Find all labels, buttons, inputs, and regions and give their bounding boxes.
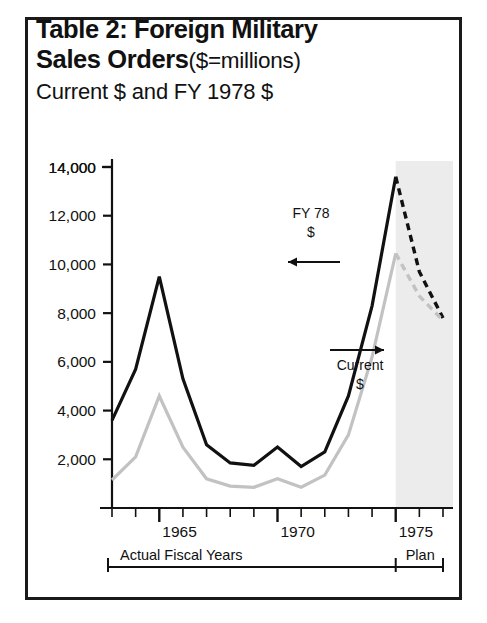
period-brackets: Actual Fiscal YearsPlan: [108, 547, 443, 572]
annotation-fy78-line1: FY 78: [292, 205, 329, 221]
x-tick-label: 1975: [399, 523, 433, 540]
y-axis-tick-labels: 2,0004,0006,0008,00010,00012,00014,00014…: [49, 159, 97, 468]
bracket-label-plan: Plan: [406, 547, 435, 563]
y-tick-label: 6,000: [57, 353, 96, 370]
x-axis-ticks: [112, 508, 443, 522]
y-axis-ticks: [103, 167, 112, 459]
annotation-fy78-line2: $: [307, 224, 315, 240]
x-tick-label: 1965: [162, 523, 196, 540]
y-tick-label: 8,000: [57, 305, 96, 322]
bracket-label-actual: Actual Fiscal Years: [120, 547, 243, 563]
chart-series-lines: [112, 177, 443, 488]
chart-annotations: FY 78$Current$: [288, 205, 384, 392]
y-tick-label: 10,000: [49, 256, 97, 273]
arrow-head-icon: [375, 346, 384, 355]
annotation-current-line2: $: [356, 376, 364, 392]
chart-plot-area: 2,0004,0006,0008,00010,00012,00014,00014…: [0, 0, 487, 623]
x-axis-tick-labels: 196519701975: [162, 523, 433, 540]
y-tick-label: 14,000: [49, 159, 97, 176]
y-tick-label: 2,000: [57, 451, 96, 468]
chart-svg: 2,0004,0006,0008,00010,00012,00014,00014…: [0, 0, 487, 623]
y-tick-label: 12,000: [49, 207, 97, 224]
x-tick-label: 1970: [281, 523, 316, 540]
y-tick-label: 4,000: [57, 402, 96, 419]
annotation-current-line1: Current: [337, 357, 384, 373]
arrow-head-icon: [288, 258, 297, 267]
